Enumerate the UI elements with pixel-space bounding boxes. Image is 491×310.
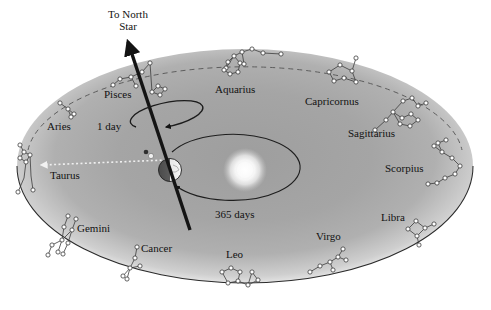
constellation-label-capricornus: Capricornus — [305, 95, 359, 107]
diagram-canvas — [0, 0, 491, 310]
constellation-label-virgo: Virgo — [316, 230, 341, 242]
constellation-label-gemini: Gemini — [77, 222, 110, 234]
constellation-label-aries: Aries — [47, 120, 71, 132]
zodiac-orbit-diagram: To North Star 1 day 365 days PiscesAquar… — [0, 0, 491, 310]
sun — [223, 148, 267, 192]
orbital-period-label: 365 days — [215, 208, 254, 220]
constellation-label-cancer: Cancer — [141, 242, 172, 254]
constellation-label-aquarius: Aquarius — [215, 83, 255, 95]
constellation-label-leo: Leo — [226, 248, 243, 260]
constellation-label-taurus: Taurus — [50, 169, 80, 181]
constellation-label-pisces: Pisces — [104, 88, 132, 100]
one-day-label: 1 day — [97, 120, 121, 132]
constellation-label-scorpius: Scorpius — [385, 162, 424, 174]
north-star-label: To North Star — [90, 8, 166, 33]
constellation-label-libra: Libra — [381, 211, 405, 223]
constellation-label-sagittarius: Sagittarius — [348, 127, 395, 139]
